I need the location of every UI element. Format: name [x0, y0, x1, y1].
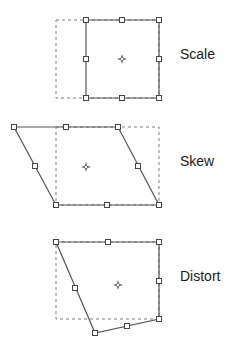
skew-original-bounds [56, 127, 159, 205]
distort-panel [54, 240, 162, 336]
handle-icon [84, 57, 89, 62]
center-point-icon [113, 280, 123, 290]
handle-icon [125, 324, 130, 329]
handle-icon [106, 240, 111, 245]
handle-icon [136, 164, 141, 169]
handle-icon [84, 18, 89, 23]
skew-label: Skew [180, 154, 214, 168]
handle-icon [157, 57, 162, 62]
handle-icon [157, 96, 162, 101]
scale-original-bounds [56, 20, 159, 98]
handle-icon [54, 203, 59, 208]
handle-icon [73, 286, 78, 291]
handle-icon [64, 125, 69, 130]
distort-original-bounds [56, 242, 159, 319]
handle-icon [157, 203, 162, 208]
center-point-icon [81, 162, 91, 172]
scale-label: Scale [180, 47, 215, 61]
distort-label: Distort [180, 269, 220, 283]
handle-icon [120, 96, 125, 101]
handle-icon [84, 96, 89, 101]
skew-panel [12, 125, 162, 208]
handle-icon [116, 125, 121, 130]
center-point-icon [117, 54, 127, 64]
handle-icon [12, 125, 17, 130]
distort-transformed-shape [56, 242, 159, 333]
handle-icon [157, 240, 162, 245]
handle-icon [54, 240, 59, 245]
handle-icon [157, 317, 162, 322]
handle-icon [105, 203, 110, 208]
handle-icon [157, 18, 162, 23]
handle-icon [120, 18, 125, 23]
scale-panel [56, 18, 162, 101]
handle-icon [157, 279, 162, 284]
handle-icon [33, 164, 38, 169]
handle-icon [93, 331, 98, 336]
